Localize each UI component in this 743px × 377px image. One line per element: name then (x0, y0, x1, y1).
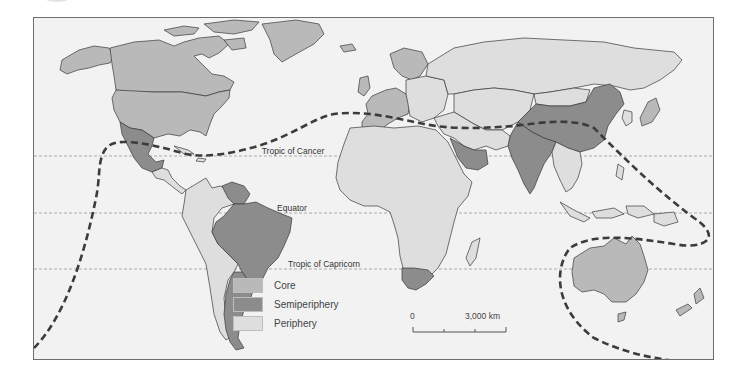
tasmania (618, 312, 626, 322)
legend-item-core: Core (233, 276, 338, 295)
japan (640, 98, 660, 126)
madagascar (466, 238, 480, 266)
eastern-europe (406, 76, 448, 122)
new-zealand (676, 288, 704, 316)
tropic-of-capricorn-label: Tropic of Capricorn (288, 259, 360, 269)
iceland (340, 44, 356, 52)
scale-bar-graphic (410, 311, 520, 341)
legend-item-semiperiphery: Semiperiphery (233, 295, 338, 314)
tropic-of-cancer-label: Tropic of Cancer (262, 146, 325, 156)
core-swatch (233, 278, 263, 293)
legend-label-core: Core (274, 280, 296, 291)
map-legend: Core Semiperiphery Periphery (233, 276, 338, 333)
russia (426, 38, 682, 94)
scale-bar: 0 3,000 km (410, 311, 520, 341)
legend-label-semiperiphery: Semiperiphery (274, 299, 338, 310)
canada (110, 36, 234, 96)
world-map-svg (34, 18, 714, 360)
periphery-swatch (233, 316, 263, 331)
legend-label-periphery: Periphery (274, 318, 317, 329)
decorative-corner-shape (40, 0, 74, 2)
australia (572, 236, 648, 302)
legend-item-periphery: Periphery (233, 314, 338, 333)
uk (358, 76, 370, 96)
indonesia (560, 202, 678, 226)
equator-label: Equator (277, 203, 307, 213)
philippines (616, 164, 624, 180)
world-map-frame: Tropic of Cancer Equator Tropic of Capri… (33, 17, 714, 360)
greenland (262, 20, 324, 62)
semiperiphery-swatch (233, 297, 263, 312)
korea (622, 110, 632, 126)
south-africa (402, 268, 434, 290)
central-america (152, 168, 186, 194)
scandinavia (390, 48, 428, 80)
alaska (60, 46, 114, 74)
